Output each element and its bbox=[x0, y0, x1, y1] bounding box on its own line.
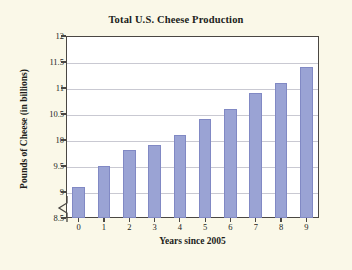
chart-title: Total U.S. Cheese Production bbox=[0, 14, 352, 25]
bars-layer bbox=[66, 36, 319, 218]
x-tick-mark bbox=[179, 218, 180, 222]
y-tick-label: 10 bbox=[24, 135, 64, 145]
x-tick-mark bbox=[255, 218, 256, 222]
axis-break-icon bbox=[56, 196, 72, 222]
x-axis-label: Years since 2005 bbox=[66, 236, 319, 246]
bar bbox=[300, 67, 313, 218]
x-tick-label: 3 bbox=[143, 222, 167, 232]
x-tick-label: 9 bbox=[294, 222, 318, 232]
y-tick-label: 12 bbox=[24, 31, 64, 41]
x-tick-label: 4 bbox=[168, 222, 192, 232]
x-tick-label: 1 bbox=[92, 222, 116, 232]
x-tick-label: 7 bbox=[244, 222, 268, 232]
x-tick-label: 8 bbox=[269, 222, 293, 232]
x-tick-mark bbox=[78, 218, 79, 222]
bar bbox=[224, 109, 237, 218]
bar bbox=[174, 135, 187, 218]
chart-figure: Total U.S. Cheese Production Pounds of C… bbox=[0, 0, 352, 270]
y-tick-label: 10.5 bbox=[24, 109, 64, 119]
x-tick-mark bbox=[230, 218, 231, 222]
y-tick-label: 11 bbox=[24, 83, 64, 93]
y-tick-label: 11.5 bbox=[24, 57, 64, 67]
x-tick-label: 2 bbox=[117, 222, 141, 232]
bar bbox=[148, 145, 161, 218]
x-tick-mark bbox=[205, 218, 206, 222]
x-tick-label: 6 bbox=[218, 222, 242, 232]
x-tick-label: 5 bbox=[193, 222, 217, 232]
bar bbox=[275, 83, 288, 218]
y-tick-label: 9.5 bbox=[24, 161, 64, 171]
x-tick-mark bbox=[154, 218, 155, 222]
x-tick-mark bbox=[280, 218, 281, 222]
x-tick-mark bbox=[129, 218, 130, 222]
x-tick-mark bbox=[306, 218, 307, 222]
x-tick-mark bbox=[103, 218, 104, 222]
bar bbox=[199, 119, 212, 218]
bar bbox=[123, 150, 136, 218]
bar bbox=[249, 93, 262, 218]
bar bbox=[98, 166, 111, 218]
bar bbox=[72, 187, 85, 218]
x-tick-label: 0 bbox=[67, 222, 91, 232]
